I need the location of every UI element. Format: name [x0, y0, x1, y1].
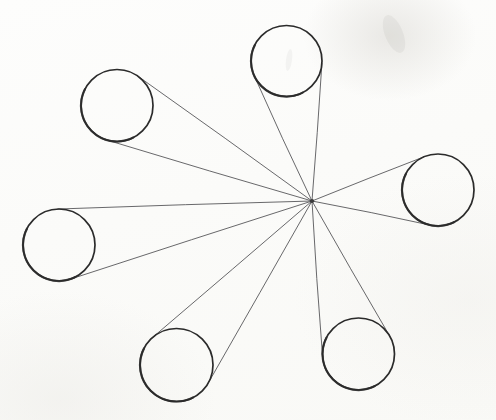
hub-point-layer — [310, 199, 314, 203]
tangent-rosette-svg — [0, 0, 496, 420]
paper-background — [0, 0, 496, 420]
convergence-point — [310, 199, 314, 203]
figure-canvas — [0, 0, 496, 420]
